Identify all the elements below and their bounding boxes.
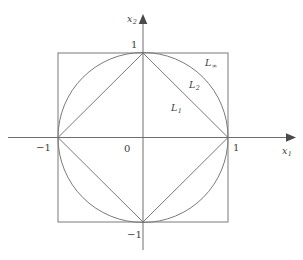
x-axis-label: x1	[282, 146, 292, 156]
y-axis-label-subscript: 2	[133, 18, 137, 26]
l2-label-subscript: 2	[196, 84, 200, 92]
linf-label-subscript: ∞	[212, 62, 217, 70]
y-tick-label-one: 1	[131, 40, 137, 50]
x-tick-label-minus-one: −1	[36, 143, 51, 153]
linf-label-base: L	[205, 57, 211, 68]
y-tick-label-minus-one: −1	[127, 230, 142, 240]
y-axis-arrowhead	[139, 14, 148, 24]
l2-curve-label: L2	[189, 80, 199, 90]
l1-label-subscript: 1	[178, 107, 182, 115]
plot-canvas	[0, 0, 303, 260]
unit-ball-figure: x2 x1 −1 1 1 −1 0 L∞ L2 L1	[0, 0, 303, 260]
origin-label: 0	[124, 144, 130, 154]
x-axis-arrowhead	[286, 133, 296, 142]
l2-label-base: L	[189, 79, 195, 90]
x-axis-label-base: x	[282, 145, 287, 156]
l1-label-base: L	[171, 102, 177, 113]
l1-curve-label: L1	[171, 103, 181, 113]
x-axis-label-subscript: 1	[288, 150, 292, 158]
y-axis-label: x2	[127, 14, 137, 24]
linf-curve-label: L∞	[205, 58, 217, 68]
x-tick-label-one: 1	[233, 143, 239, 153]
y-axis-label-base: x	[127, 13, 132, 24]
